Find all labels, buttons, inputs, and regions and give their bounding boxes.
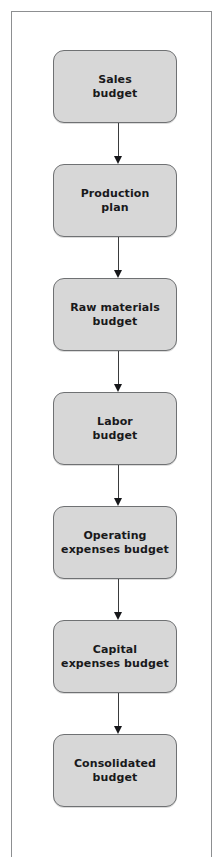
flow-node-operating-expenses-budget[interactable]: Operating expenses budget <box>53 506 177 579</box>
flow-node-label: Consolidated budget <box>69 757 161 784</box>
flow-node-raw-materials-budget[interactable]: Raw materials budget <box>53 278 177 351</box>
flow-node-production-plan[interactable]: Production plan <box>53 164 177 237</box>
arrow-head-down-icon <box>114 156 122 164</box>
flow-arrow-sales-budget-to-production-plan <box>114 123 123 164</box>
arrow-head-down-icon <box>114 384 122 392</box>
flow-node-label: Raw materials budget <box>65 301 165 328</box>
flow-node-capital-expenses-budget[interactable]: Capital expenses budget <box>53 620 177 693</box>
arrow-shaft <box>118 693 119 727</box>
arrow-head-down-icon <box>114 498 122 506</box>
arrow-shaft <box>118 351 119 385</box>
arrow-shaft <box>118 465 119 499</box>
flow-node-label: Capital expenses budget <box>56 643 174 670</box>
flow-node-consolidated-budget[interactable]: Consolidated budget <box>53 734 177 807</box>
flow-arrow-labor-budget-to-operating-expenses-budget <box>114 465 123 506</box>
flow-node-labor-budget[interactable]: Labor budget <box>53 392 177 465</box>
arrow-shaft <box>118 579 119 613</box>
flow-node-label: Operating expenses budget <box>56 529 174 556</box>
flow-node-label: Production plan <box>76 187 155 214</box>
flow-node-label: Labor budget <box>88 415 143 442</box>
arrow-head-down-icon <box>114 270 122 278</box>
arrow-head-down-icon <box>114 612 122 620</box>
flow-node-label: Sales budget <box>88 73 143 100</box>
arrow-head-down-icon <box>114 726 122 734</box>
flow-arrow-capital-expenses-budget-to-consolidated-budget <box>114 693 123 734</box>
flow-node-sales-budget[interactable]: Sales budget <box>53 50 177 123</box>
flow-arrow-raw-materials-budget-to-labor-budget <box>114 351 123 392</box>
arrow-shaft <box>118 237 119 271</box>
flow-arrow-production-plan-to-raw-materials-budget <box>114 237 123 278</box>
arrow-shaft <box>118 123 119 157</box>
flow-arrow-operating-expenses-budget-to-capital-expenses-budget <box>114 579 123 620</box>
